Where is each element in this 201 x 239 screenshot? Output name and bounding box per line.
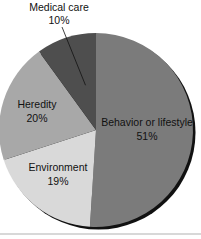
- slice-label-environment: Environment: [29, 161, 88, 173]
- slice-label-behavior: Behavior or lifestyle: [101, 116, 193, 128]
- slice-value-behavior: 51%: [136, 130, 157, 142]
- slice-label-medical-care: Medical care: [29, 1, 89, 13]
- slice-value-environment: 19%: [47, 175, 68, 187]
- bottom-rule: [0, 233, 201, 235]
- slice-value-medical-care: 10%: [48, 14, 69, 26]
- pie-chart: Behavior or lifestyle 51% Environment 19…: [0, 0, 201, 239]
- slice-value-heredity: 20%: [26, 112, 47, 124]
- slice-label-heredity: Heredity: [17, 98, 57, 110]
